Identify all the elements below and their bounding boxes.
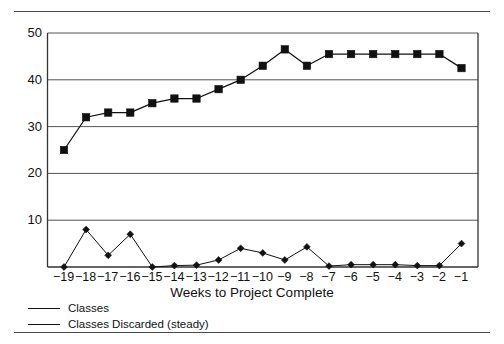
chart-figure: 1020304050 −19−18−17−16−15−14−13−12−11−1… <box>0 0 504 344</box>
data-point-square <box>215 85 222 92</box>
gridlines-group <box>48 33 479 220</box>
x-tick-label: −1 <box>444 270 478 285</box>
chart-legend: Classes Classes Discarded (steady) <box>28 301 308 333</box>
data-point-square <box>414 50 421 57</box>
data-point-diamond <box>259 250 266 257</box>
legend-label-classes-discarded: Classes Discarded (steady) <box>60 318 209 331</box>
data-point-square <box>104 109 111 116</box>
data-point-square <box>193 95 200 102</box>
legend-item-classes-discarded: Classes Discarded (steady) <box>28 317 308 331</box>
data-point-diamond <box>237 245 244 252</box>
data-point-square <box>149 100 156 107</box>
data-point-square <box>369 50 376 57</box>
data-point-diamond <box>215 257 222 264</box>
data-point-square <box>171 95 178 102</box>
data-point-square <box>127 109 134 116</box>
legend-item-classes: Classes <box>28 301 308 315</box>
data-point-square <box>436 50 443 57</box>
data-point-square <box>259 62 266 69</box>
data-point-square <box>392 50 399 57</box>
data-point-square <box>237 76 244 83</box>
data-point-square <box>325 50 332 57</box>
x-axis-title: Weeks to Project Complete <box>0 285 504 301</box>
data-point-square <box>458 64 465 71</box>
legend-key-diamond-icon <box>28 318 60 330</box>
data-point-square <box>281 46 288 53</box>
legend-key-square-icon <box>28 302 60 314</box>
data-point-diamond <box>171 262 178 269</box>
series-line-classes-discarded <box>64 230 462 267</box>
data-point-diamond <box>281 257 288 264</box>
data-point-square <box>347 50 354 57</box>
legend-label-classes: Classes <box>60 302 109 315</box>
data-point-square <box>60 146 67 153</box>
data-point-square <box>303 62 310 69</box>
data-point-diamond <box>414 262 421 269</box>
data-point-square <box>82 114 89 121</box>
